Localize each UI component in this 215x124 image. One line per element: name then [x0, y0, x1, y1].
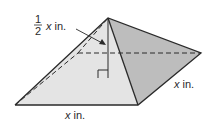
- height-label-denominator: 2: [35, 25, 41, 37]
- base-front-label: x in.: [64, 109, 85, 121]
- height-label-text: x in.: [45, 20, 66, 32]
- height-label-numerator: 1: [35, 13, 41, 25]
- base-side-label: x in.: [173, 78, 194, 90]
- pyramid-diagram: 1 2 x in. x in. x in.: [0, 0, 215, 124]
